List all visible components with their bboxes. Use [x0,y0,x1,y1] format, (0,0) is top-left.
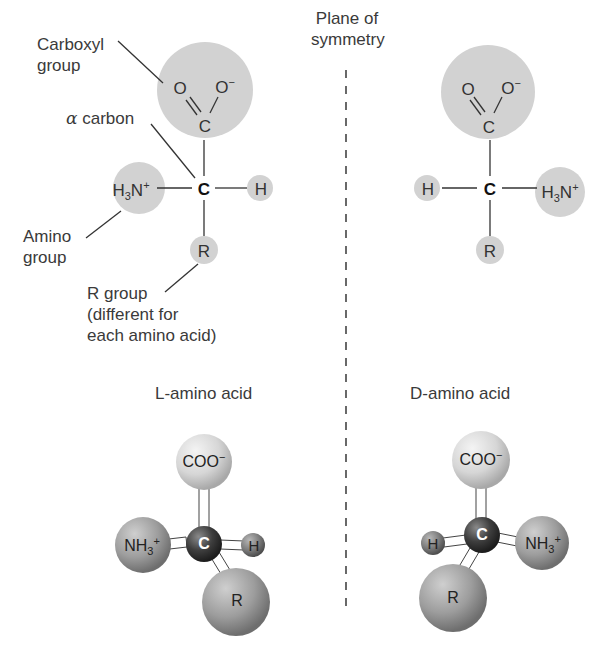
right-hydrogen: H [422,181,434,198]
right-alpha-carbon: C [484,181,496,198]
l-nh3-label: NH3+ [124,538,160,554]
alpha-carbon-label: α carbon [66,108,134,129]
left-o-minus-charge: − [228,76,234,88]
right-amino-h: H [541,183,553,202]
l-coo-label: COO− [183,454,226,470]
left-hydrogen: H [255,181,267,198]
right-r-group: R [484,243,496,260]
left-amino-h: H [112,181,124,200]
left-amino-n: N [131,181,143,200]
right-o-double: O [461,81,474,98]
right-carboxyl-carbon: C [483,119,495,136]
r-label-line3: each amino acid) [87,325,216,346]
right-o-minus-charge: − [514,77,520,89]
plane-of-symmetry-label: Plane of symmetry [311,8,383,50]
l-amino-acid-title: L-amino acid [155,384,252,404]
r-label-line1: R group [87,283,216,304]
amino-acid-chirality-figure: Plane of symmetry Carboxyl group α carbo… [0,0,605,651]
r-label-line2: (different for [87,304,216,325]
left-o-double: O [173,80,186,97]
l-nh-charge: + [153,535,159,547]
alpha-carbon-text: carbon [82,109,134,128]
right-structure-shading [414,45,585,264]
left-amino-charge: + [143,179,149,191]
d-coo-charge: − [496,449,502,461]
d-nh-charge: + [554,533,560,545]
left-o-minus-symbol: O [215,78,228,97]
carboxyl-leader-line [118,41,163,83]
d-nh3-label: NH3+ [525,536,561,552]
l-r-label: R [231,593,243,609]
left-amino-formula: H3N+ [112,182,149,199]
l-nh-text: NH [124,537,147,554]
left-r-group: R [198,243,210,260]
l-coo-text: COO [183,453,219,470]
l-carbon-label: C [198,536,210,552]
carboxyl-label-line1: Carboxyl [37,34,104,55]
d-r-label: R [447,590,459,606]
l-coo-charge: − [219,451,225,463]
d-nh-text: NH [525,535,548,552]
right-amino-n: N [560,183,572,202]
amino-group-label: Amino group [23,226,71,268]
amino-leader-line [86,211,121,238]
left-carboxyl-carbon: C [199,118,211,135]
plane-label-line2: symmetry [311,29,383,50]
d-amino-acid-title: D-amino acid [410,384,510,404]
r-group-label: R group (different for each amino acid) [87,283,216,346]
amino-label-line2: group [23,247,71,268]
d-h-label: H [428,536,439,551]
amino-label-line1: Amino [23,226,71,247]
carboxyl-group-label: Carboxyl group [37,34,104,76]
carboxyl-label-line2: group [37,55,104,76]
d-coo-text: COO [460,451,496,468]
right-amino-charge: + [572,181,578,193]
right-o-minus: O− [501,80,521,97]
left-o-minus: O− [215,79,235,96]
left-structure-shading [113,42,273,264]
right-amino-formula: H3N+ [541,184,578,201]
left-alpha-carbon: C [198,181,210,198]
alpha-symbol: α [66,108,77,128]
d-coo-label: COO− [460,452,503,468]
right-o-minus-symbol: O [501,79,514,98]
d-carbon-label: C [476,527,488,543]
plane-label-line1: Plane of [311,8,383,29]
l-h-label: H [249,538,260,553]
